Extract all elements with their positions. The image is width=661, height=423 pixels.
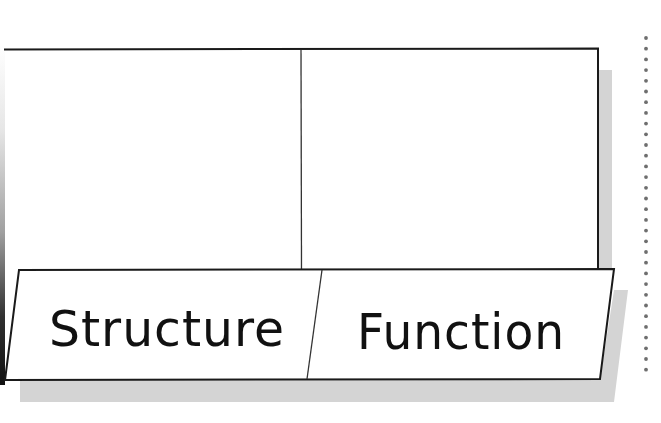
fold-dot	[644, 304, 648, 308]
top-panel-divider	[301, 50, 302, 270]
fold-dot	[644, 336, 648, 340]
fold-dot	[644, 346, 648, 350]
fold-dot	[644, 357, 648, 361]
fold-dot	[644, 250, 648, 254]
fold-dot	[644, 186, 648, 190]
fold-dot	[644, 68, 648, 72]
fold-dot	[644, 282, 648, 286]
fold-dot	[644, 36, 648, 40]
top-panel-shadow	[598, 70, 612, 270]
fold-dot	[644, 100, 648, 104]
fold-dot	[644, 272, 648, 276]
fold-dot	[644, 143, 648, 147]
dotted-fold-line	[644, 36, 648, 372]
fold-dot	[644, 90, 648, 94]
fold-dot	[644, 218, 648, 222]
fold-dot	[644, 261, 648, 265]
top-panels	[4, 49, 598, 271]
fold-dot	[644, 58, 648, 62]
fold-dot	[644, 368, 648, 372]
fold-dot	[644, 122, 648, 126]
fold-dot	[644, 239, 648, 243]
fold-dot	[644, 325, 648, 329]
tab-label-function: Function	[357, 303, 565, 361]
fold-dot	[644, 111, 648, 115]
fold-dot	[644, 207, 648, 211]
fold-dot	[644, 132, 648, 136]
fold-dot	[644, 47, 648, 51]
fold-dot	[644, 314, 648, 318]
fold-dot	[644, 165, 648, 169]
fold-dot	[644, 229, 648, 233]
page-edge-shadow	[0, 45, 5, 385]
fold-dot	[644, 293, 648, 297]
fold-dot	[644, 154, 648, 158]
fold-dot	[644, 79, 648, 83]
fold-dot	[644, 197, 648, 201]
tab-strip: Structure Function	[5, 269, 614, 380]
foldable-diagram: Structure Function	[0, 0, 661, 423]
tab-label-structure: Structure	[49, 300, 285, 358]
fold-dot	[644, 175, 648, 179]
